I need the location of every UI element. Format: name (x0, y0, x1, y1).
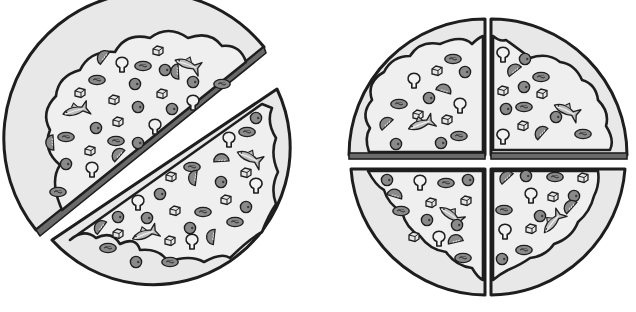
quarter-slice-bottom-right (491, 169, 625, 295)
pizza-fractions-illustration: Two pizzas: one cut into halves, one cut… (0, 0, 636, 312)
quarter-slice-top-left (349, 19, 485, 159)
pizza-halves (4, 0, 290, 285)
quarter-slice-top-right (491, 19, 627, 159)
quarter-slice-bottom-left (351, 169, 485, 295)
pizza-quarters (349, 19, 627, 295)
